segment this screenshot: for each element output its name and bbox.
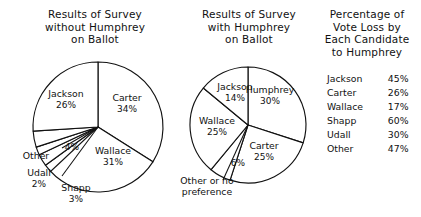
pie-label-jackson2-pct: 14% xyxy=(225,93,245,103)
pie-geometry-without-humphrey xyxy=(33,62,163,192)
pie-label-wallace2-pct: 25% xyxy=(207,127,227,137)
vote-loss-percent: 17% xyxy=(374,100,419,114)
pie-label-shapp: Shapp 3% xyxy=(61,182,90,204)
table-row: Jackson45% xyxy=(327,72,419,86)
vote-loss-title-line: Each Candidate xyxy=(313,33,421,46)
pie-label-other2-line1: Other or no xyxy=(180,175,234,186)
vote-loss-candidate: Carter xyxy=(327,86,374,100)
pie-label-carter2-name: Carter xyxy=(249,140,278,151)
vote-loss-candidate: Shapp xyxy=(327,114,374,128)
table-row: Other47% xyxy=(327,142,419,156)
pie-label-carter-name: Carter xyxy=(112,92,141,103)
vote-loss-candidate: Udall xyxy=(327,128,374,142)
table-row: Shapp60% xyxy=(327,114,419,128)
pie-label-wallace-pct: 31% xyxy=(103,157,123,167)
vote-loss-title-line: Percentage of xyxy=(313,8,421,21)
vote-loss-title: Percentage of Vote Loss by Each Candidat… xyxy=(313,8,421,58)
pie-label-wallace-name: Wallace xyxy=(95,145,131,156)
pie-label-jackson-name: Jackson xyxy=(47,88,83,99)
pie-label-shapp-pct: 3% xyxy=(69,194,84,204)
pie-label-other2-line2: preference xyxy=(182,186,233,197)
table-row: Udall30% xyxy=(327,128,419,142)
pie-label-other-pct: 4% xyxy=(65,142,80,152)
pie-label-wallace2-name: Wallace xyxy=(199,115,235,126)
vote-loss-candidate: Other xyxy=(327,142,374,156)
pie-label-other2-pct: 6% xyxy=(231,158,246,168)
table-row: Wallace17% xyxy=(327,100,419,114)
vote-loss-panel: Percentage of Vote Loss by Each Candidat… xyxy=(313,0,421,217)
table-row: Carter26% xyxy=(327,86,419,100)
vote-loss-candidate: Jackson xyxy=(327,72,374,86)
pie-label-udall-pct: 2% xyxy=(32,179,47,189)
vote-loss-percent: 26% xyxy=(374,86,419,100)
vote-loss-percent: 30% xyxy=(374,128,419,142)
vote-loss-table: Jackson45%Carter26%Wallace17%Shapp60%Uda… xyxy=(327,72,419,156)
pie-label-other-name: Other xyxy=(23,150,50,161)
pie-chart-with-humphrey: Humphrey 30% Carter 25% Wallace 25% Jack… xyxy=(185,0,313,217)
vote-loss-table-body: Jackson45%Carter26%Wallace17%Shapp60%Uda… xyxy=(327,72,419,156)
pie-label-carter-pct: 34% xyxy=(117,104,137,114)
pie-label-jackson2-name: Jackson xyxy=(216,81,252,92)
survey-with-humphrey-panel: Results of Survey with Humphrey on Ballo… xyxy=(185,0,313,217)
pie-label-humphrey-name: Humphrey xyxy=(246,84,295,95)
pie-label-shapp-name: Shapp xyxy=(61,182,90,193)
pie-label-carter2-pct: 25% xyxy=(254,152,274,162)
vote-loss-percent: 45% xyxy=(374,72,419,86)
vote-loss-title-line: to Humphrey xyxy=(313,46,421,59)
pie-label-jackson-pct: 26% xyxy=(56,100,76,110)
pie-chart-without-humphrey: Jackson 26% Carter 34% Wallace 31% Other… xyxy=(0,0,190,217)
survey-without-humphrey-panel: Results of Survey without Humphrey on Ba… xyxy=(0,0,190,217)
pie-label-humphrey-pct: 30% xyxy=(260,96,280,106)
vote-loss-percent: 60% xyxy=(374,114,419,128)
pie-label-udall-name: Udall xyxy=(27,167,51,178)
vote-loss-candidate: Wallace xyxy=(327,100,374,114)
vote-loss-percent: 47% xyxy=(374,142,419,156)
pie-label-udall: Udall 2% xyxy=(27,167,51,189)
vote-loss-title-line: Vote Loss by xyxy=(313,21,421,34)
